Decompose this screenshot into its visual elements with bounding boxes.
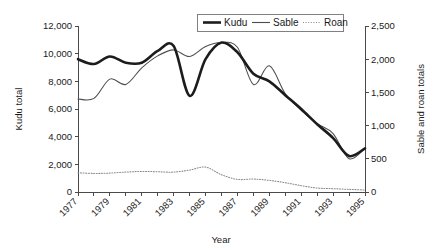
x-tick-label: 1979 <box>89 196 112 219</box>
left-axis: 02,0004,0006,0008,00010,00012,000 Kudu t… <box>13 20 78 197</box>
x-tick-label: 1987 <box>216 196 239 219</box>
x-tick-label: 1991 <box>280 196 303 219</box>
x-tick-label: 1985 <box>184 196 207 219</box>
left-tick-label: 4,000 <box>48 131 72 142</box>
right-tick-label: 500 <box>371 153 387 164</box>
right-axis-title: Sable and roan totals <box>415 64 426 154</box>
x-tick-label: 1977 <box>57 196 80 219</box>
x-tick-label: 1989 <box>248 196 271 219</box>
legend-label-sable: Sable <box>273 17 299 28</box>
right-axis: 05001,0001,5002,0002,500 Sable and roan … <box>365 20 426 197</box>
right-tick-label: 2,500 <box>371 20 395 31</box>
left-axis-title: Kudu total <box>13 88 24 131</box>
x-tick-label: 1993 <box>312 196 335 219</box>
x-tick-label: 1995 <box>344 196 367 219</box>
line-chart: 02,0004,0006,0008,00010,00012,000 Kudu t… <box>0 0 439 252</box>
legend-label-kudu: Kudu <box>224 17 247 28</box>
right-tick-label: 1,000 <box>371 120 395 131</box>
left-tick-label: 12,000 <box>43 20 72 31</box>
chart-legend: Kudu Sable Roan <box>197 14 348 31</box>
left-tick-label: 2,000 <box>48 159 72 170</box>
left-tick-label: 6,000 <box>48 103 72 114</box>
plot-area <box>78 26 365 192</box>
left-tick-label: 10,000 <box>43 48 72 59</box>
chart-container: 02,0004,0006,0008,00010,00012,000 Kudu t… <box>0 0 439 252</box>
right-tick-label: 0 <box>371 186 376 197</box>
left-tick-label: 8,000 <box>48 76 72 87</box>
x-axis-title: Year <box>211 234 230 245</box>
x-tick-label: 1981 <box>120 196 143 219</box>
right-tick-label: 1,500 <box>371 87 395 98</box>
x-tick-label: 1983 <box>152 196 175 219</box>
x-axis: 1977197919811983198519871989199119931995… <box>57 192 367 245</box>
legend-label-roan: Roan <box>324 17 348 28</box>
right-tick-label: 2,000 <box>371 54 395 65</box>
